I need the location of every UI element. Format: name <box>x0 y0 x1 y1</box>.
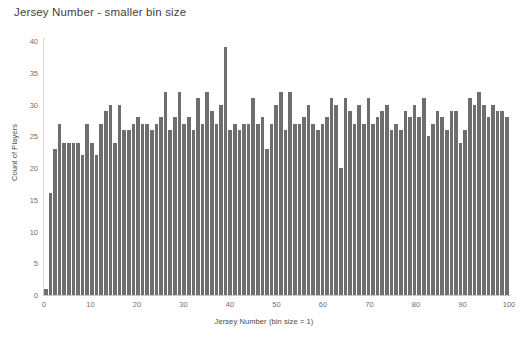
y-axis-tick-label: 35 <box>30 68 38 77</box>
y-axis-tick-label: 0 <box>34 291 38 300</box>
plot-area <box>44 41 509 295</box>
x-axis-tick-label: 50 <box>272 300 280 309</box>
y-axis-tick-label: 5 <box>34 259 38 268</box>
histogram-chart: Jersey Number - smaller bin size 0510152… <box>0 0 528 337</box>
x-axis-tick-label: 80 <box>412 300 420 309</box>
x-axis-tick-label: 40 <box>226 300 234 309</box>
bar <box>505 117 509 295</box>
x-axis-tick-label: 30 <box>179 300 187 309</box>
x-axis-tick-label: 70 <box>365 300 373 309</box>
y-axis-tick-label: 40 <box>30 37 38 46</box>
x-axis-tick-label: 0 <box>42 300 46 309</box>
x-axis-tick-label: 20 <box>133 300 141 309</box>
y-axis-tick-labels: 0510152025303540 <box>0 0 38 337</box>
x-axis-tick-label: 10 <box>86 300 94 309</box>
x-axis-tick-label: 90 <box>458 300 466 309</box>
x-axis-tick-label: 100 <box>503 300 516 309</box>
x-axis-tick-label: 60 <box>319 300 327 309</box>
bar-series <box>44 41 509 295</box>
chart-title: Jersey Number - smaller bin size <box>14 6 186 18</box>
x-axis-line <box>43 295 511 296</box>
x-axis-title: Jersey Number (bin size = 1) <box>0 317 528 326</box>
y-axis-tick-label: 30 <box>30 100 38 109</box>
y-axis-tick-label: 25 <box>30 132 38 141</box>
y-axis-title: Count of Players <box>10 103 19 203</box>
y-axis-tick-label: 15 <box>30 195 38 204</box>
y-axis-tick-label: 10 <box>30 227 38 236</box>
y-axis-tick-label: 20 <box>30 164 38 173</box>
